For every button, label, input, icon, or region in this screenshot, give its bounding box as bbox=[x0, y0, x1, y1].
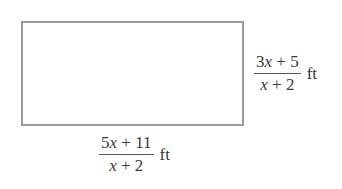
height-numerator: 3x + 5 bbox=[254, 53, 301, 73]
width-numerator: 5x + 11 bbox=[99, 134, 154, 154]
height-denominator: x + 2 bbox=[254, 73, 301, 94]
width-denominator: x + 2 bbox=[99, 154, 154, 175]
height-fraction: 3x + 5 x + 2 bbox=[254, 53, 301, 94]
rectangle-shape bbox=[21, 21, 244, 126]
width-fraction: 5x + 11 x + 2 bbox=[99, 134, 154, 175]
height-label: 3x + 5 x + 2 ft bbox=[254, 53, 317, 94]
width-label: 5x + 11 x + 2 ft bbox=[99, 134, 170, 175]
width-unit: ft bbox=[160, 145, 170, 165]
height-unit: ft bbox=[307, 64, 317, 84]
